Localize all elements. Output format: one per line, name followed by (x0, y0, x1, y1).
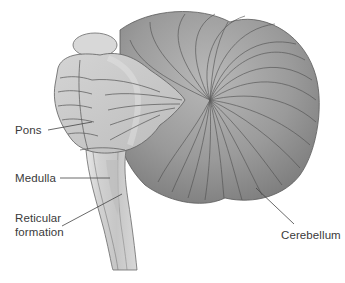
label-reticular-line-2: formation (15, 225, 64, 239)
label-cerebellum: Cerebellum (281, 228, 341, 242)
label-pons: Pons (15, 123, 42, 137)
label-medulla: Medulla (15, 171, 56, 185)
label-reticular-line-1: Reticular (15, 211, 64, 225)
label-reticular-formation: Reticular formation (15, 211, 64, 239)
brainstem-shape (86, 150, 137, 270)
